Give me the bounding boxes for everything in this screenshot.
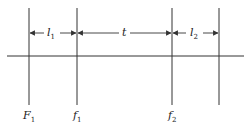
label-f2: f2	[168, 110, 177, 124]
label-F1: F1	[23, 110, 35, 124]
label-t: t	[122, 27, 126, 38]
label-l1: l1	[47, 27, 55, 41]
label-f1: f1	[73, 110, 82, 124]
diagram-canvas	[0, 0, 247, 128]
label-l2: l2	[190, 27, 198, 41]
